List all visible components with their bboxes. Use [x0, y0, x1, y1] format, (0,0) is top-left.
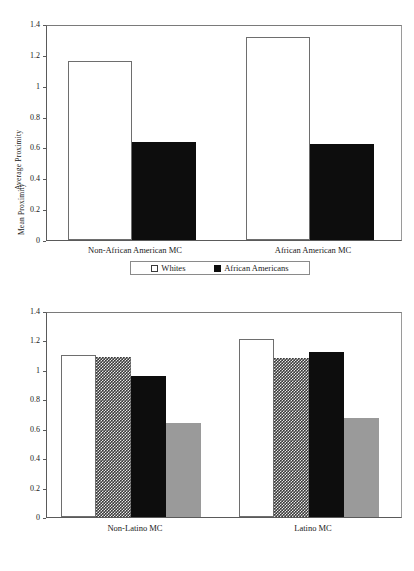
legend-label: African Americans [224, 263, 288, 274]
y-tick-label: 1.4 [0, 308, 40, 316]
legend-label: Whites [161, 263, 185, 274]
y-tick-mark [43, 241, 46, 242]
bar [166, 423, 201, 517]
chart-mean-proximity: Mean Proximity 00.20.40.60.811.21.4 Non-… [0, 290, 414, 571]
y-tick-label: 1 [0, 83, 40, 91]
bar [131, 376, 166, 517]
bar [132, 142, 196, 240]
bar [246, 37, 310, 240]
bar [274, 358, 309, 517]
x-category-label: Non-African American MC [46, 245, 224, 255]
y-tick-label: 0.4 [0, 455, 40, 463]
y-tick-label: 1.2 [0, 337, 40, 345]
y-tick-label: 0.6 [0, 144, 40, 152]
x-category-label: African American MC [224, 245, 402, 255]
chart-average-proximity: Average Proximity 00.20.40.60.811.21.4 N… [0, 0, 414, 290]
y-tick-label: 0 [0, 237, 40, 245]
y-tick-label: 1.4 [0, 21, 40, 29]
bar [309, 352, 344, 517]
legend-item: Whites [151, 263, 185, 274]
plot-area-top [46, 25, 402, 241]
y-tick-label: 0 [0, 514, 40, 522]
legend-item: African Americans [214, 263, 288, 274]
legend-top: WhitesAfrican Americans [130, 261, 310, 275]
x-category-label: Latino MC [224, 523, 402, 533]
bar [68, 61, 132, 240]
y-tick-label: 0.6 [0, 426, 40, 434]
y-tick-label: 1.2 [0, 52, 40, 60]
y-tick-label: 0.8 [0, 114, 40, 122]
plot-area-bottom [46, 312, 402, 518]
y-tick-mark [43, 518, 46, 519]
bar [239, 339, 274, 517]
y-axis-label-bottom: Mean Proximity [17, 183, 26, 235]
y-tick-label: 1 [0, 367, 40, 375]
legend-swatch-icon [151, 265, 158, 272]
legend-swatch-icon [214, 265, 221, 272]
bar [310, 144, 374, 240]
bar [344, 418, 379, 517]
y-tick-label: 0.2 [0, 485, 40, 493]
x-category-label: Non-Latino MC [46, 523, 224, 533]
bar [96, 357, 131, 517]
y-tick-label: 0.8 [0, 396, 40, 404]
bar [61, 355, 96, 517]
